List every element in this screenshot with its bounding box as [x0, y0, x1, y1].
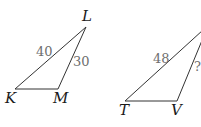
similar-triangles-diagram: L K M 40 30 T V 48 ? [0, 0, 201, 127]
side-label-v-top-unknown: ? [194, 59, 201, 74]
triangle-tv: T V 48 ? [119, 30, 201, 119]
vertex-label-m: M [52, 89, 69, 107]
side-label-kl: 40 [36, 44, 53, 59]
vertex-label-l: L [81, 7, 92, 25]
side-label-lm: 30 [73, 54, 90, 69]
vertex-label-k: K [4, 89, 17, 107]
vertex-label-v: V [171, 101, 184, 119]
triangle-klm: L K M 40 30 [4, 7, 92, 107]
side-label-t-top: 48 [153, 51, 170, 66]
vertex-label-t: T [119, 101, 130, 119]
